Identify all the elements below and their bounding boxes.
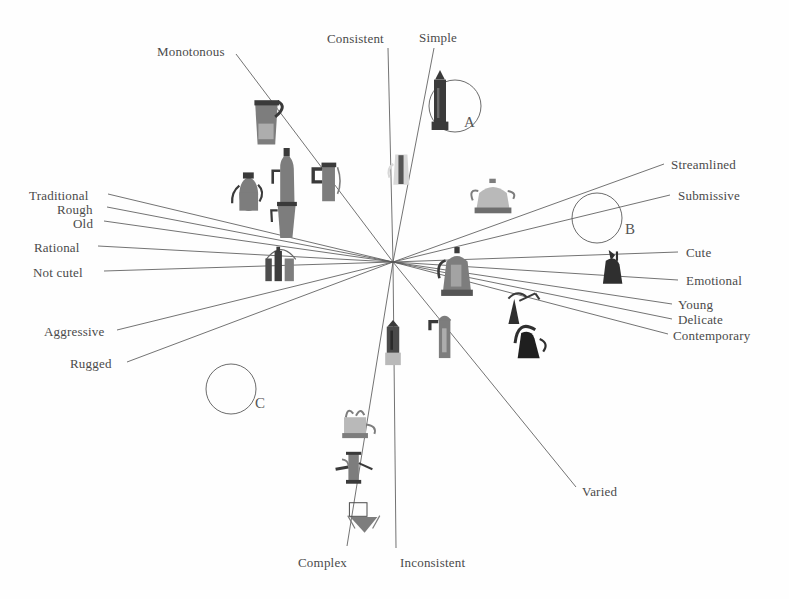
product-icon-tall-jug-pot [254, 100, 282, 144]
axis-label-inconsistent: Inconsistent [400, 556, 465, 569]
axis-label-monotonous: Monotonous [157, 45, 225, 58]
axis-line-cute [393, 252, 678, 262]
axis-label-varied: Varied [582, 485, 617, 498]
semantic-space-figure: MonotonousConsistentSimpleStreamlinedSub… [0, 0, 789, 599]
product-icon-short-moka [385, 320, 401, 365]
product-icon-cone-pot-pale [388, 154, 409, 184]
axis-line-not-cute [104, 262, 393, 271]
cluster-circle-C [206, 364, 256, 414]
product-icon-wire-figure-pot [508, 293, 539, 324]
axis-label-cute: Cute [686, 246, 711, 259]
cluster-circle-B [572, 193, 622, 243]
product-icon-arch-handle-pot [515, 326, 546, 358]
axis-label-submissive: Submissive [678, 189, 740, 202]
axis-line-varied [393, 262, 576, 487]
axis-label-streamlined: Streamlined [671, 158, 736, 171]
product-icon-bird-spout-jug [603, 250, 622, 284]
product-icon-multi-part-rig [342, 411, 375, 438]
product-icon-group [232, 70, 622, 533]
axis-label-traditional: Traditional [29, 189, 89, 202]
product-icon-classic-percolator [438, 247, 472, 296]
axis-label-old: Old [73, 217, 93, 230]
cluster-label-A: A [464, 115, 475, 130]
axis-label-young: Young [678, 298, 713, 311]
axis-label-not-cute: Not cutel [33, 266, 83, 279]
product-icon-spouted-kettle [232, 172, 262, 211]
axis-label-emotional: Emotional [686, 274, 742, 287]
axis-label-rational: Rational [34, 241, 80, 254]
product-icon-lidded-teapot [471, 179, 514, 214]
cluster-label-C: C [255, 396, 265, 411]
product-icon-tapered-jug [271, 202, 297, 238]
axis-line-aggressive [117, 262, 393, 330]
product-icon-flat-handle-mug [313, 163, 340, 202]
axis-line-group [98, 48, 678, 548]
axis-line-rational [98, 246, 393, 262]
axis-label-consistent: Consistent [327, 32, 384, 45]
axis-line-contemporary [393, 262, 668, 334]
axis-line-complex [347, 262, 393, 546]
axis-label-aggressive: Aggressive [44, 325, 105, 338]
product-icon-box-funnel [348, 503, 380, 533]
product-icon-bottle-pot [273, 148, 295, 202]
axis-line-streamlined [393, 164, 664, 262]
axis-line-monotonous [236, 54, 393, 262]
axis-line-inconsistent [393, 262, 396, 548]
axis-label-simple: Simple [419, 31, 457, 44]
axis-line-young [393, 262, 672, 304]
axis-label-rugged: Rugged [70, 357, 112, 370]
vector-layer [0, 0, 789, 599]
axis-label-rough: Rough [57, 203, 93, 216]
product-icon-moka-tower [432, 70, 449, 130]
product-icon-angular-pot [430, 317, 450, 358]
cluster-label-B: B [625, 222, 635, 237]
axis-label-contemporary: Contemporary [673, 329, 751, 342]
axis-line-rough [107, 207, 393, 262]
product-icon-syringe-press [336, 452, 373, 484]
product-icon-dome-group [265, 247, 295, 281]
axis-line-rugged [127, 262, 393, 362]
axis-label-complex: Complex [298, 556, 347, 569]
axis-label-delicate: Delicate [678, 313, 723, 326]
axis-line-consistent [388, 48, 393, 262]
